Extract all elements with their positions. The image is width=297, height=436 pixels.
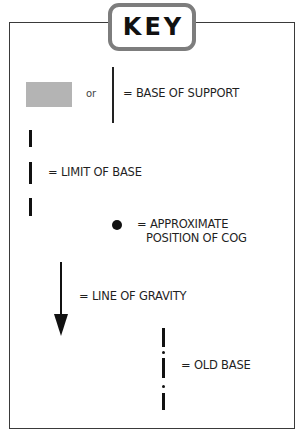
base-of-support-rectangle-icon [26, 82, 72, 107]
or-separator: or [86, 88, 96, 99]
limit-of-base-dash-icon [29, 162, 32, 184]
old-base-dot-icon [162, 385, 165, 388]
cog-label-line2: POSITION OF COG [146, 231, 247, 245]
cog-label-line1: = APPROXIMATE [137, 217, 228, 231]
limit-of-base-dash-icon [29, 198, 32, 216]
key-title: KEY [120, 13, 184, 41]
base-of-support-line-icon [112, 67, 114, 123]
old-base-dot-icon [162, 351, 165, 354]
old-base-dash-icon [162, 393, 165, 410]
line-of-gravity-label: = LINE OF GRAVITY [79, 289, 186, 303]
limit-of-base-label: = LIMIT OF BASE [48, 165, 142, 179]
old-base-label: = OLD BASE [181, 358, 251, 372]
key-title-box: KEY [108, 3, 196, 51]
cog-dot-icon [112, 220, 122, 230]
gravity-arrow-shaft [60, 262, 62, 316]
arrow-down-icon [54, 314, 68, 336]
limit-of-base-dash-icon [29, 130, 32, 147]
old-base-dash-icon [162, 328, 165, 347]
base-of-support-label: = BASE OF SUPPORT [123, 86, 239, 100]
old-base-dash-icon [162, 358, 165, 378]
